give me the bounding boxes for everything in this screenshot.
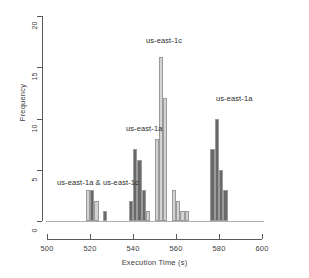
bar: [90, 190, 94, 221]
bar: [146, 211, 150, 221]
annotation-label-0: us-east-1a & us-east-1c: [57, 178, 139, 187]
bar: [185, 211, 189, 221]
bar: [94, 201, 98, 222]
annotation-label-2: us-east-1c: [146, 36, 182, 45]
bar: [142, 190, 146, 221]
bar: [103, 211, 107, 221]
bar: [223, 190, 227, 221]
annotation-label-1: us-east-1a: [126, 124, 162, 133]
annotation-label-3: us-east-1a: [216, 94, 252, 103]
histogram-plot: 05101520 Frequency 500520540560580600 Ex…: [0, 0, 309, 278]
bar: [163, 98, 167, 221]
